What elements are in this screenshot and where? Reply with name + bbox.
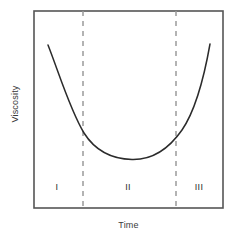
region-label-iii: III: [195, 182, 203, 192]
y-axis-label: Viscosity: [10, 85, 20, 122]
region-label-i: I: [56, 182, 59, 192]
y-axis-label-container: Viscosity: [0, 0, 30, 208]
x-axis-label: Time: [118, 220, 138, 230]
region-label-ii: II: [125, 182, 131, 192]
plot-area: [0, 0, 237, 244]
viscosity-time-chart: Viscosity Time I II III: [0, 0, 237, 244]
x-axis-label-container: Time: [34, 214, 223, 232]
